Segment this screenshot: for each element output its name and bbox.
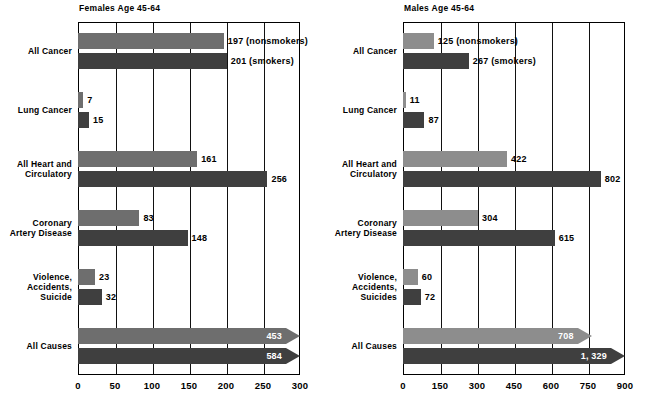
bar-smokers xyxy=(78,171,267,187)
gridline xyxy=(116,23,117,374)
bar-value-label: 125 (nonsmokers) xyxy=(438,33,518,49)
x-axis-tick-label: 450 xyxy=(506,380,522,391)
bar-body xyxy=(403,210,478,226)
gridline xyxy=(190,23,191,374)
gridline xyxy=(478,23,479,374)
bar-body xyxy=(78,33,224,49)
bar-value-label: 11 xyxy=(410,92,420,108)
bar-body xyxy=(403,151,507,167)
bar-value-label: 7 xyxy=(87,92,92,108)
bar-value-label: 148 xyxy=(192,230,208,246)
chart-title-males: Males Age 45-64 xyxy=(404,3,474,13)
x-axis-tick-label: 50 xyxy=(110,380,121,391)
bar-body xyxy=(78,53,227,69)
bar-nonsmokers xyxy=(78,269,95,285)
bar-nonsmokers xyxy=(403,269,418,285)
plot-area-females xyxy=(78,22,300,375)
bar-body xyxy=(78,171,267,187)
chart-panel-males: Males Age 45-64 0150300450600750900All C… xyxy=(325,0,650,403)
x-axis-tick-label: 900 xyxy=(617,380,633,391)
bar-body xyxy=(78,151,197,167)
bar-body xyxy=(78,210,139,226)
bar-value-label: 304 xyxy=(482,210,498,226)
bar-value-label: 708 xyxy=(558,328,574,344)
x-axis-tick-label: 0 xyxy=(75,380,80,391)
dual-bar-chart-figure: Females Age 45-64 050100150200250300All … xyxy=(0,0,650,403)
bar-smokers xyxy=(403,171,601,187)
bar-body xyxy=(78,328,286,344)
category-label: Violence,Accidents,Suicide xyxy=(0,272,72,302)
bar-value-label: 83 xyxy=(143,210,153,226)
bar-nonsmokers xyxy=(78,33,224,49)
gridline xyxy=(589,23,590,374)
bar-body xyxy=(78,289,102,305)
bar-value-label: 60 xyxy=(422,269,432,285)
bar-value-label: 87 xyxy=(428,112,438,128)
bar-body xyxy=(78,112,89,128)
bar-body xyxy=(78,230,188,246)
category-label: All Causes xyxy=(297,341,397,351)
bar-value-label: 72 xyxy=(425,289,435,305)
gridline xyxy=(227,23,228,374)
bar-nonsmokers xyxy=(78,92,83,108)
bar-value-label: 453 xyxy=(266,328,282,344)
bar-value-label: 422 xyxy=(511,151,527,167)
bar-value-label: 1, 329 xyxy=(581,348,607,364)
plot-area-males xyxy=(403,22,625,375)
bar-value-label: 23 xyxy=(99,269,109,285)
bar-nonsmokers xyxy=(78,151,197,167)
x-axis-tick-label: 150 xyxy=(181,380,197,391)
bar-body xyxy=(403,269,418,285)
bar-nonsmokers xyxy=(403,210,478,226)
x-axis-tick-label: 750 xyxy=(580,380,596,391)
x-axis-tick-label: 0 xyxy=(400,380,405,391)
bar-body xyxy=(403,92,406,108)
bar-body xyxy=(78,348,286,364)
bar-nonsmokers xyxy=(403,151,507,167)
category-label: All Heart andCirculatory xyxy=(297,159,397,179)
x-axis-tick-label: 100 xyxy=(144,380,160,391)
x-axis-tick-label: 300 xyxy=(292,380,308,391)
category-label: Lung Cancer xyxy=(297,105,397,115)
gridline xyxy=(552,23,553,374)
bar-value-label: 161 xyxy=(201,151,217,167)
bar-body xyxy=(78,92,83,108)
bar-smokers xyxy=(78,53,227,69)
x-axis-tick-label: 200 xyxy=(218,380,234,391)
chart-title-females: Females Age 45-64 xyxy=(79,3,160,13)
bar-value-label: 267 (smokers) xyxy=(473,53,536,69)
bar-body xyxy=(403,230,555,246)
bar-value-label: 256 xyxy=(271,171,287,187)
bar-body xyxy=(403,53,469,69)
bar-value-label: 584 xyxy=(266,348,282,364)
category-label: Violence,Accidents,Suicides xyxy=(297,272,397,302)
bar-smokers xyxy=(78,112,89,128)
x-axis-tick-label: 250 xyxy=(255,380,271,391)
category-label: CoronaryArtery Disease xyxy=(0,218,72,238)
gridline xyxy=(515,23,516,374)
bar-value-label: 201 (smokers) xyxy=(231,53,294,69)
x-axis-tick-label: 600 xyxy=(543,380,559,391)
overflow-arrow-tip xyxy=(578,328,592,344)
bar-body xyxy=(403,33,434,49)
bar-nonsmokers xyxy=(78,210,139,226)
chart-panel-females: Females Age 45-64 050100150200250300All … xyxy=(0,0,325,403)
overflow-arrow-tip xyxy=(611,348,625,364)
bar-nonsmokers xyxy=(403,33,434,49)
gridline xyxy=(264,23,265,374)
bar-smokers xyxy=(78,230,188,246)
bar-value-label: 197 (nonsmokers) xyxy=(228,33,308,49)
bar-body xyxy=(403,328,578,344)
category-label: All Cancer xyxy=(0,46,72,56)
x-axis-tick-label: 300 xyxy=(469,380,485,391)
bar-smokers xyxy=(403,53,469,69)
category-label: CoronaryArtery Disease xyxy=(297,218,397,238)
x-axis-tick-label: 150 xyxy=(432,380,448,391)
category-label: All Heart andCirculatory xyxy=(0,159,72,179)
category-label: All Causes xyxy=(0,341,72,351)
bar-smokers xyxy=(403,230,555,246)
bar-nonsmokers xyxy=(403,92,406,108)
bar-smokers xyxy=(403,289,421,305)
bar-body xyxy=(78,269,95,285)
bar-smokers xyxy=(403,112,424,128)
